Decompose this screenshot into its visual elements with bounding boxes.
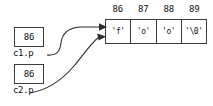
- array-address-row: 86 87 88 89: [105, 3, 207, 16]
- array-address-label: 89: [182, 3, 208, 16]
- pointer-memory-diagram: 86 87 88 89 'f' 'o' 'o' '\0' 86 c1.p 86 …: [0, 0, 213, 106]
- array-address-label: 86: [105, 3, 131, 16]
- array-address-label: 88: [156, 3, 182, 16]
- pointer-variable-c1p: 86 c1.p: [12, 27, 58, 59]
- array-address-label: 87: [131, 3, 157, 16]
- array-cell: 'f': [106, 20, 131, 43]
- array-cell: 'o': [157, 20, 182, 43]
- pointer-variable-label: c2.p: [12, 84, 58, 96]
- character-array: 'f' 'o' 'o' '\0': [105, 19, 207, 44]
- pointer-value-box: 86: [14, 64, 44, 84]
- pointer-variable-c2p: 86 c2.p: [12, 64, 58, 96]
- pointer-value-box: 86: [14, 27, 44, 47]
- array-cell: 'o': [131, 20, 156, 43]
- pointer-variable-label: c1.p: [12, 47, 58, 59]
- array-cell: '\0': [182, 20, 206, 43]
